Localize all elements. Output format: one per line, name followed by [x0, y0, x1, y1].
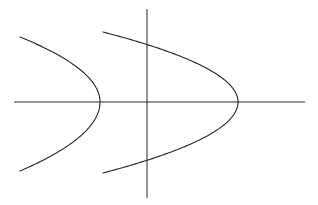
figure-canvas: [0, 0, 318, 205]
parabola-diagram-svg: [0, 0, 318, 205]
